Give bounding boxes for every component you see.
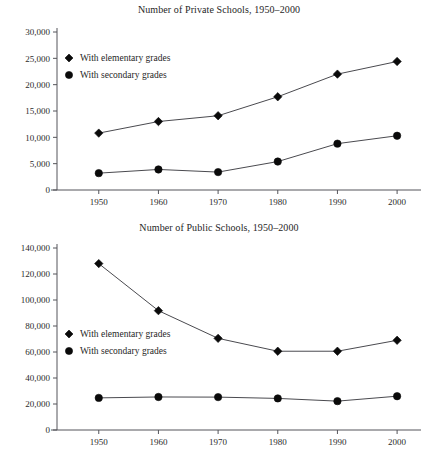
y-tick-label: 0 — [46, 185, 51, 195]
data-point-circle[interactable] — [393, 132, 400, 139]
data-point-diamond[interactable] — [154, 117, 162, 125]
y-tick-label: 100,000 — [21, 295, 51, 305]
x-tick-label: 1960 — [149, 197, 168, 207]
data-point-diamond[interactable] — [274, 93, 282, 101]
private-schools-chart: Number of Private Schools, 1950–2000 05,… — [0, 0, 438, 218]
data-point-circle[interactable] — [95, 169, 102, 176]
series-line-secondary — [99, 396, 397, 401]
data-point-circle[interactable] — [334, 140, 341, 147]
x-tick-label: 1950 — [90, 437, 109, 447]
data-point-circle[interactable] — [274, 158, 281, 165]
x-tick-label: 2000 — [388, 437, 407, 447]
legend-label-secondary: With secondary grades — [80, 70, 167, 80]
data-point-circle[interactable] — [334, 397, 341, 404]
y-tick-label: 120,000 — [21, 269, 51, 279]
data-point-circle[interactable] — [214, 168, 221, 175]
x-tick-label: 1990 — [328, 437, 347, 447]
private-schools-plot: 05,00010,00015,00020,00025,00030,0001950… — [0, 0, 438, 218]
series-line-secondary — [99, 136, 397, 173]
y-tick-label: 20,000 — [25, 80, 50, 90]
data-point-circle[interactable] — [155, 166, 162, 173]
x-tick-label: 1970 — [209, 197, 228, 207]
data-point-diamond[interactable] — [95, 129, 103, 137]
x-tick-label: 1990 — [328, 197, 347, 207]
data-point-circle[interactable] — [214, 393, 221, 400]
data-point-circle[interactable] — [155, 393, 162, 400]
legend-marker-circle — [65, 347, 72, 354]
data-point-diamond[interactable] — [393, 57, 401, 65]
chart-page: Number of Private Schools, 1950–2000 05,… — [0, 0, 438, 466]
y-tick-label: 40,000 — [25, 373, 50, 383]
legend-label-secondary: With secondary grades — [80, 346, 167, 356]
x-tick-label: 1970 — [209, 437, 228, 447]
legend-marker-diamond — [65, 54, 73, 62]
y-tick-label: 15,000 — [25, 106, 50, 116]
data-point-diamond[interactable] — [333, 347, 341, 355]
data-point-diamond[interactable] — [214, 112, 222, 120]
data-point-circle[interactable] — [95, 394, 102, 401]
y-tick-label: 0 — [46, 425, 51, 435]
data-point-diamond[interactable] — [393, 336, 401, 344]
x-tick-label: 1980 — [269, 437, 288, 447]
x-tick-label: 1960 — [149, 437, 168, 447]
data-point-circle[interactable] — [393, 393, 400, 400]
data-point-diamond[interactable] — [274, 347, 282, 355]
y-tick-label: 20,000 — [25, 399, 50, 409]
y-tick-label: 140,000 — [21, 243, 51, 253]
data-point-circle[interactable] — [274, 395, 281, 402]
public-schools-chart: Number of Public Schools, 1950–2000 020,… — [0, 220, 438, 466]
y-tick-label: 25,000 — [25, 54, 50, 64]
y-tick-label: 5,000 — [30, 159, 51, 169]
y-tick-label: 80,000 — [25, 321, 50, 331]
x-tick-label: 1950 — [90, 197, 109, 207]
legend-label-elementary: With elementary grades — [80, 329, 171, 339]
y-tick-label: 10,000 — [25, 133, 50, 143]
legend-label-elementary: With elementary grades — [80, 53, 171, 63]
data-point-diamond[interactable] — [214, 334, 222, 342]
y-tick-label: 30,000 — [25, 27, 50, 37]
x-tick-label: 2000 — [388, 197, 407, 207]
x-tick-label: 1980 — [269, 197, 288, 207]
y-tick-label: 60,000 — [25, 347, 50, 357]
public-schools-plot: 020,00040,00060,00080,000100,000120,0001… — [0, 220, 438, 466]
data-point-diamond[interactable] — [333, 70, 341, 78]
legend-marker-circle — [65, 71, 72, 78]
legend-marker-diamond — [65, 330, 73, 338]
